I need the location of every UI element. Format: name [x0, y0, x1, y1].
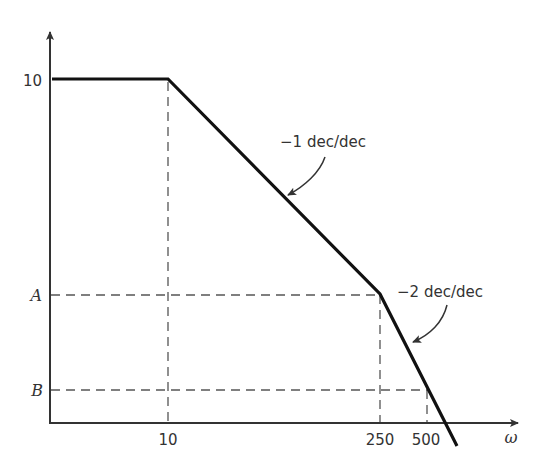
y-tick-B: B: [30, 381, 43, 400]
reference-lines: [51, 82, 427, 423]
annotation-slope-2: −2 dec/dec: [397, 283, 483, 301]
x-tick-250: 250: [366, 431, 395, 449]
annotation-arrow-2: [413, 305, 447, 342]
y-tick-10: 10: [23, 72, 42, 90]
y-tick-A: A: [28, 286, 42, 305]
magnitude-line: [52, 79, 457, 446]
bode-plot: 10 A B 10 250 500 ω −1 dec/dec −2 dec/de…: [0, 0, 549, 469]
x-tick-500: 500: [412, 431, 441, 449]
annotation-arrow-1: [288, 157, 325, 195]
annotation-slope-1: −1 dec/dec: [280, 133, 366, 151]
x-axis-label: ω: [504, 428, 517, 447]
x-tick-10: 10: [158, 431, 177, 449]
